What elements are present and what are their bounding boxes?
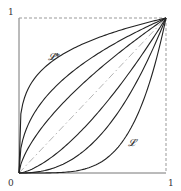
label-lower-curve: 𝓛 — [128, 137, 138, 148]
curve-family-diagram: 1 0 1 𝓛* 𝓛 — [0, 0, 181, 191]
label-upper-curve: 𝓛* — [48, 51, 60, 62]
tick-y-one: 1 — [8, 7, 14, 17]
tick-x-one: 1 — [168, 178, 174, 188]
tick-origin: 0 — [8, 178, 14, 188]
diagonal-line — [19, 18, 166, 173]
